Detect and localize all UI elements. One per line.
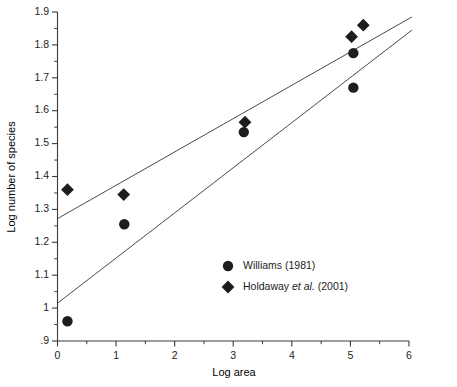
tick-labels-group: .911.11.21.31.41.51.61.71.81.90123456 [34,5,412,361]
x-tick-label: 5 [347,349,353,361]
data-point-circle [348,82,358,92]
x-tick-label: 3 [230,349,236,361]
x-tick-label: 1 [113,349,119,361]
y-tick-label: 1 [43,301,49,313]
regression-line-williams-fit [58,30,412,303]
y-tick-label: 1.4 [34,169,49,181]
y-tick-label: 1.9 [34,5,49,17]
data-point-circle [348,48,358,58]
y-tick-label: 1.7 [34,71,49,83]
y-tick-label: 1.2 [34,235,49,247]
x-tick-label: 6 [406,349,412,361]
x-axis-title: Log area [212,366,256,378]
legend-label: Williams (1981) [243,259,315,271]
y-tick-label: 1.6 [34,103,49,115]
regression-line-holdaway-fit [58,17,412,219]
y-tick-label: 1.5 [34,136,49,148]
legend-marker-circle [223,261,233,271]
chart-canvas: .911.11.21.31.41.51.61.71.81.90123456 Wi… [0,0,457,387]
legend-label: Holdaway et al. (2001) [243,280,348,292]
y-tick-label: 1.3 [34,202,49,214]
data-point-circle [62,316,72,326]
data-point-diamond [239,116,252,129]
series-holdaway [61,19,370,201]
x-tick-label: 0 [55,349,61,361]
fit-lines-group [58,17,412,303]
legend-marker-diamond [222,281,235,294]
ticks-group [52,12,409,347]
axes-group [58,12,410,341]
y-tick-label: .9 [40,334,49,346]
y-tick-label: 1.8 [34,38,49,50]
data-point-diamond [357,19,370,32]
data-point-circle [119,219,129,229]
data-point-diamond [345,30,358,43]
data-point-diamond [61,183,74,196]
legend-entry: Williams (1981) [223,259,316,271]
y-tick-label: 1.1 [34,268,49,280]
x-tick-label: 4 [289,349,295,361]
legend-entry: Holdaway et al. (2001) [222,280,348,294]
data-point-circle [239,127,249,137]
x-tick-label: 2 [172,349,178,361]
chart-legend: Williams (1981)Holdaway et al. (2001) [222,259,348,294]
y-axis-title: Log number of species [5,121,17,233]
species-area-scatter-figure: .911.11.21.31.41.51.61.71.81.90123456 Wi… [0,0,457,387]
data-point-diamond [117,188,130,201]
